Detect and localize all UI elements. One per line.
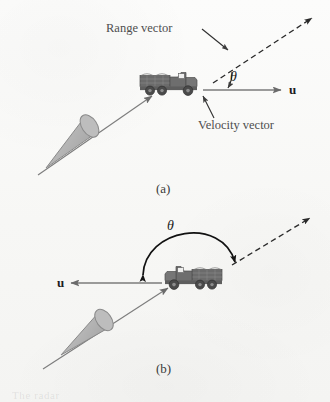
panel-a-theta-arc	[228, 72, 232, 88]
panel-a-range-vector-arrow	[213, 18, 312, 83]
panel-a-velocity-vector-leader	[203, 96, 214, 118]
figure-vector-graphics	[0, 0, 330, 402]
panel-b-radar-cone	[61, 306, 117, 355]
panel-b-truck	[165, 267, 222, 290]
panel-b-range-vector-arrow	[232, 218, 310, 265]
figure-root: Range vector Velocity vector u θ (a) u θ…	[0, 0, 330, 402]
panel-a-range-vector-leader	[202, 29, 228, 50]
panel-a-truck	[140, 73, 197, 96]
panel-a-radar-cone	[46, 111, 103, 168]
panel-b-theta-arc	[143, 233, 235, 275]
